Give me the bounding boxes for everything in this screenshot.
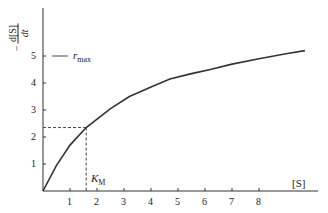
rate-curve xyxy=(43,51,305,191)
y-tick-label: 2 xyxy=(31,132,36,142)
y-tick-label: 3 xyxy=(31,105,36,115)
x-tick-label: 3 xyxy=(121,197,126,207)
axes xyxy=(43,8,318,191)
km-guide-lines xyxy=(43,128,86,191)
x-tick-label: 6 xyxy=(202,197,207,207)
x-tick-label: 7 xyxy=(229,197,234,207)
y-axis-denominator: dt xyxy=(19,30,30,38)
x-tick-label: 1 xyxy=(67,197,72,207)
x-tick-label: 5 xyxy=(175,197,180,207)
chart-plot-area xyxy=(0,0,328,213)
y-axis-sign: − xyxy=(11,46,22,52)
y-tick-label: 5 xyxy=(31,51,36,61)
x-tick-label: 4 xyxy=(148,197,153,207)
x-tick-label: 2 xyxy=(94,197,99,207)
y-axis-numerator: d[S] xyxy=(7,24,19,43)
y-tick-label: 4 xyxy=(31,78,36,88)
x-tick-label: 8 xyxy=(256,197,261,207)
x-axis-label: [S] xyxy=(292,178,305,189)
rmax-label: rmax xyxy=(73,50,91,64)
y-axis-label: − d[S] dt xyxy=(3,8,33,58)
y-tick-label: 1 xyxy=(31,159,36,169)
km-label: KM xyxy=(91,173,105,187)
